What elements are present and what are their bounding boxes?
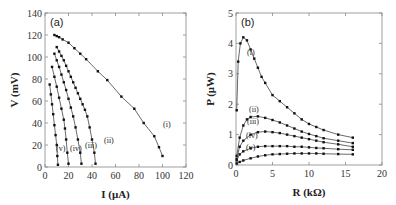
x-tick-label: 0 xyxy=(234,168,239,179)
data-point xyxy=(257,146,259,148)
data-point xyxy=(94,163,96,165)
data-point xyxy=(308,152,310,154)
data-point xyxy=(271,119,273,121)
data-point xyxy=(63,119,65,121)
data-point xyxy=(58,36,60,38)
data-point xyxy=(52,113,54,115)
data-point xyxy=(50,93,52,95)
data-point xyxy=(88,126,90,128)
data-point xyxy=(97,70,99,72)
data-point xyxy=(67,42,69,44)
data-point xyxy=(286,124,288,126)
y-tick-label: 80 xyxy=(32,74,42,85)
data-point xyxy=(81,103,83,105)
data-point xyxy=(293,152,295,154)
data-point xyxy=(352,149,354,151)
data-point xyxy=(79,98,81,100)
data-point xyxy=(143,122,145,124)
data-point xyxy=(58,97,60,99)
x-axis-label: R (kΩ) xyxy=(293,186,326,199)
data-point xyxy=(293,135,295,137)
data-point xyxy=(86,115,88,117)
data-point xyxy=(337,139,339,141)
data-point xyxy=(53,124,55,126)
data-point xyxy=(271,145,273,147)
data-point xyxy=(74,87,76,89)
y-tick-label: 60 xyxy=(32,96,42,107)
data-point xyxy=(85,58,87,60)
y-tick-label: 140 xyxy=(27,8,42,19)
data-point xyxy=(322,129,324,131)
data-point xyxy=(56,35,58,37)
data-point xyxy=(120,95,122,97)
data-point xyxy=(77,92,79,94)
data-point xyxy=(54,134,56,136)
data-point xyxy=(301,146,303,148)
x-tick-label: 15 xyxy=(341,168,351,179)
data-point xyxy=(301,152,303,154)
data-point xyxy=(308,146,310,148)
chart-a: 020406080100120020406080100120140I (μA)V… xyxy=(8,8,194,202)
data-point xyxy=(65,89,67,91)
data-point xyxy=(257,155,259,157)
data-point xyxy=(79,53,81,55)
data-point xyxy=(238,146,240,148)
data-point xyxy=(315,147,317,149)
series-label: (i) xyxy=(163,120,171,129)
series-line xyxy=(237,153,353,163)
data-point xyxy=(286,133,288,135)
x-tick-label: 60 xyxy=(111,170,121,181)
x-axis-label: I (μA) xyxy=(101,188,130,201)
x-tick-label: 40 xyxy=(87,170,97,181)
data-point xyxy=(236,162,238,164)
data-point xyxy=(72,115,74,117)
series-label: (iii) xyxy=(247,117,259,126)
data-point xyxy=(352,142,354,144)
data-point xyxy=(301,130,303,132)
data-point xyxy=(77,138,79,140)
data-point xyxy=(236,159,238,161)
x-tick-label: 0 xyxy=(43,170,48,181)
data-point xyxy=(301,136,303,138)
series-label: (iv) xyxy=(246,131,258,140)
data-point xyxy=(239,42,241,44)
data-point xyxy=(279,121,281,123)
data-point xyxy=(70,106,72,108)
data-point xyxy=(53,76,55,78)
data-point xyxy=(65,138,67,140)
data-point xyxy=(51,103,53,105)
y-tick-label: 4 xyxy=(228,38,233,49)
data-point xyxy=(60,108,62,110)
data-point xyxy=(242,139,244,141)
data-point xyxy=(293,112,295,114)
y-axis-label: V (mV) xyxy=(8,72,21,107)
data-point xyxy=(249,157,251,159)
y-tick-label: 40 xyxy=(32,118,42,129)
data-point xyxy=(158,146,160,148)
data-point xyxy=(286,106,288,108)
y-tick-label: 20 xyxy=(32,140,42,151)
data-point xyxy=(337,153,339,155)
x-tick-label: 10 xyxy=(304,168,314,179)
data-point xyxy=(63,81,65,83)
data-point xyxy=(56,59,58,61)
y-tick-label: 3 xyxy=(228,68,233,79)
data-point xyxy=(337,148,339,150)
data-point xyxy=(80,163,82,165)
data-point xyxy=(70,76,72,78)
series-label: (ii) xyxy=(249,105,259,114)
data-point xyxy=(242,36,244,38)
data-point xyxy=(64,127,66,129)
data-point xyxy=(61,38,63,40)
data-point xyxy=(238,136,240,138)
x-tick-label: 20 xyxy=(377,168,387,179)
series-label: (v) xyxy=(56,144,66,153)
data-point xyxy=(238,153,240,155)
data-point xyxy=(242,159,244,161)
data-point xyxy=(74,126,76,128)
data-point xyxy=(352,153,354,155)
data-point xyxy=(315,152,317,154)
data-point xyxy=(56,155,58,157)
data-point xyxy=(286,153,288,155)
data-point xyxy=(315,139,317,141)
